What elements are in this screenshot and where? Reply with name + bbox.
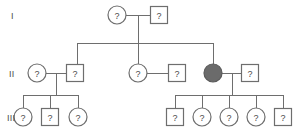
unknown-phenotype-marker: ? bbox=[199, 113, 204, 123]
pedigree-chart: ??????????????? IIIIII bbox=[0, 0, 303, 134]
pedigree-individual-iii-3[interactable]: ? bbox=[69, 108, 87, 126]
gen-label-2: II bbox=[9, 69, 15, 79]
unknown-phenotype-marker: ? bbox=[247, 69, 252, 79]
pedigree-canvas: ??????????????? IIIIII bbox=[0, 0, 303, 134]
unknown-phenotype-marker: ? bbox=[280, 113, 285, 123]
pedigree-individual-ii-4[interactable]: ? bbox=[169, 65, 186, 82]
unknown-phenotype-marker: ? bbox=[172, 113, 177, 123]
connector-layer bbox=[23, 15, 283, 108]
unknown-phenotype-marker: ? bbox=[135, 69, 140, 79]
gen-label-3: III bbox=[7, 113, 15, 123]
symbol-layer: ??????????????? bbox=[14, 6, 292, 126]
pedigree-individual-i-2[interactable]: ? bbox=[151, 7, 168, 24]
pedigree-individual-iii-8[interactable]: ? bbox=[275, 109, 292, 126]
unknown-phenotype-marker: ? bbox=[34, 69, 39, 79]
unknown-phenotype-marker: ? bbox=[156, 11, 161, 21]
pedigree-individual-ii-5[interactable] bbox=[204, 64, 222, 82]
pedigree-individual-iii-6[interactable]: ? bbox=[220, 108, 238, 126]
unknown-phenotype-marker: ? bbox=[72, 69, 77, 79]
pedigree-individual-ii-2[interactable]: ? bbox=[67, 65, 84, 82]
pedigree-individual-ii-6[interactable]: ? bbox=[242, 65, 259, 82]
pedigree-individual-iii-2[interactable]: ? bbox=[42, 109, 59, 126]
unknown-phenotype-marker: ? bbox=[47, 113, 52, 123]
unknown-phenotype-marker: ? bbox=[114, 11, 119, 21]
unknown-phenotype-marker: ? bbox=[20, 113, 25, 123]
pedigree-individual-ii-3[interactable]: ? bbox=[129, 64, 147, 82]
unknown-phenotype-marker: ? bbox=[75, 113, 80, 123]
affected-female-circle[interactable] bbox=[204, 64, 222, 82]
unknown-phenotype-marker: ? bbox=[226, 113, 231, 123]
unknown-phenotype-marker: ? bbox=[174, 69, 179, 79]
unknown-phenotype-marker: ? bbox=[253, 113, 258, 123]
pedigree-individual-iii-5[interactable]: ? bbox=[193, 108, 211, 126]
gen-label-1: I bbox=[11, 11, 14, 21]
pedigree-individual-iii-1[interactable]: ? bbox=[14, 108, 32, 126]
pedigree-individual-iii-4[interactable]: ? bbox=[167, 109, 184, 126]
pedigree-individual-iii-7[interactable]: ? bbox=[247, 108, 265, 126]
generation-label-layer: IIIIII bbox=[7, 11, 15, 123]
pedigree-individual-ii-1[interactable]: ? bbox=[28, 64, 46, 82]
pedigree-individual-i-1[interactable]: ? bbox=[108, 6, 126, 24]
